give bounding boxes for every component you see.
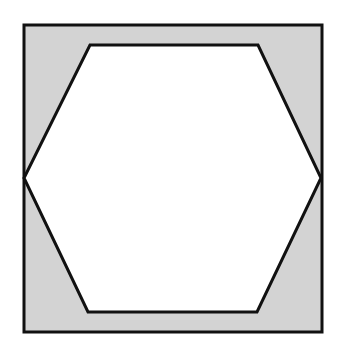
inscribed-hexagon — [24, 45, 321, 312]
geometry-diagram — [0, 0, 339, 351]
